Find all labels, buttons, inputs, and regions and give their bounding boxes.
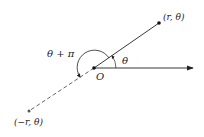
label-theta-plus-pi: θ + π: [47, 48, 75, 59]
label-theta: θ: [122, 55, 128, 66]
origin-point: [92, 66, 96, 70]
point-negative-r-theta: [28, 110, 31, 113]
polar-diagram: (r, θ) O θ θ + π (−r, θ): [0, 0, 204, 137]
label-origin: O: [96, 71, 104, 82]
ray-negative-r: [29, 68, 94, 111]
label-negative-r-theta: (−r, θ): [14, 117, 44, 127]
label-r-theta: (r, θ): [163, 12, 185, 22]
point-r-theta: [157, 21, 161, 25]
angle-theta-pi-arc: [77, 50, 109, 77]
angle-theta-arc: [112, 56, 116, 68]
